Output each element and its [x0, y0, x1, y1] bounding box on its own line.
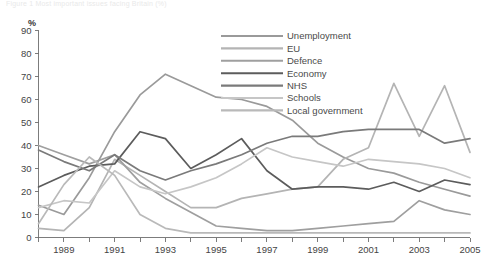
x-tick-label: 1995: [206, 244, 227, 255]
x-tick-label: 1997: [256, 244, 277, 255]
y-tick-label: 80: [21, 48, 32, 59]
y-tick-label: 20: [21, 186, 32, 197]
y-tick-label: 10: [21, 209, 32, 220]
legend-label-local-government: Local government: [287, 105, 363, 116]
y-tick-label: 50: [21, 117, 32, 128]
chart-container: Figure 1 Most important issues facing Br…: [0, 0, 482, 268]
legend-label-defence: Defence: [287, 55, 322, 66]
x-tick-label: 2001: [358, 244, 379, 255]
series-line-unemployment: [39, 74, 471, 214]
x-tick-label: 1993: [155, 244, 176, 255]
y-tick-label: 30: [21, 163, 32, 174]
y-tick-label: 0: [26, 232, 31, 243]
y-tick-label: 90: [21, 25, 32, 36]
x-tick-label: 2003: [409, 244, 430, 255]
legend-label-nhs: NHS: [287, 80, 307, 91]
series-line-local-government: [39, 157, 471, 233]
x-tick-label: 2005: [459, 244, 480, 255]
x-tick-label: 1999: [307, 244, 328, 255]
series-line-eu: [39, 83, 471, 230]
legend-label-unemployment: Unemployment: [287, 30, 351, 41]
y-tick-label: 70: [21, 71, 32, 82]
y-tick-label: 60: [21, 94, 32, 105]
x-tick-label: 1991: [104, 244, 125, 255]
legend-label-schools: Schools: [287, 92, 321, 103]
y-axis: %0102030405060708090: [21, 18, 39, 243]
legend-label-eu: EU: [287, 43, 300, 54]
x-axis: 198919911993199519971999200120032005: [39, 238, 481, 256]
x-tick-label: 1989: [53, 244, 74, 255]
series-line-defence: [39, 146, 471, 231]
y-tick-label: 40: [21, 140, 32, 151]
legend-label-economy: Economy: [287, 68, 327, 79]
line-chart: %0102030405060708090 1989199119931995199…: [0, 0, 482, 268]
chart-legend: UnemploymentEUDefenceEconomyNHSSchoolsLo…: [221, 30, 363, 115]
